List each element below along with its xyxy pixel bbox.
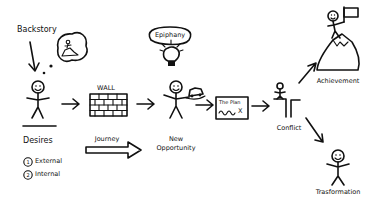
label-wall: WALL [97,85,115,92]
plan-x-mark: X [238,108,242,115]
backstory-arrow [29,42,53,74]
label-conflict: Conflict [277,125,302,132]
arrow-wall-to-opportunity [137,99,154,109]
stick-figure-desires [23,81,56,126]
label-opportunity: Opportunity [156,145,195,152]
desires-number-1: 1 [26,160,29,165]
stick-figure-transformation [327,150,349,185]
label-transformation: Trasformation [316,189,361,196]
arrow-conflict-to-transformation [306,118,323,142]
label-new: New [169,136,183,143]
label-epiphany: Epiphany [155,32,185,39]
desires-number-2: 2 [26,173,29,178]
arrow-desires-to-wall [62,99,79,109]
label-achievement: Achievement [317,78,360,85]
journey-arrow [86,142,141,158]
label-journey: Journey [95,136,120,143]
label-backstory: Backstory [17,26,57,34]
arrow-opportunity-to-plan [196,100,213,110]
conflict-cliff [274,83,300,117]
label-desires-internal: Internal [35,171,60,178]
mountain-summit [317,7,359,70]
label-the-plan: The Plan [219,100,241,105]
arrow-plan-to-conflict [252,101,269,111]
stick-figure-opportunity [164,81,205,118]
thought-bubble [58,33,87,62]
brick-wall [90,94,127,116]
label-desires-external: External [35,158,62,165]
story-diagram: Backstory Desires 1 External 2 Internal … [0,0,388,209]
label-desires: Desires [23,137,53,145]
arrow-conflict-to-achievement [299,63,316,83]
